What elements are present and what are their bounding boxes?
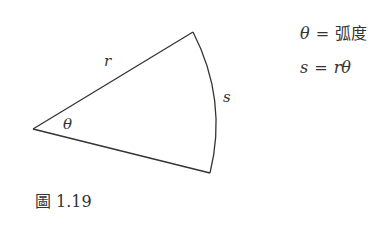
radius-line-bottom — [33, 129, 210, 173]
formula-lhs: s — [300, 58, 308, 77]
label-theta: θ — [63, 117, 72, 132]
formula-eq: = — [316, 24, 329, 43]
formula-lhs: θ — [300, 24, 310, 43]
formula-rhs: 弧度 — [335, 24, 367, 43]
label-r: r — [104, 54, 111, 69]
arc-s — [193, 32, 216, 173]
formula-theta-radian: θ=弧度 — [300, 26, 367, 42]
formula-eq: = — [314, 58, 327, 77]
label-s: s — [223, 90, 231, 105]
radius-line-top — [33, 32, 193, 129]
formula-arc-length: s=rθ — [300, 60, 351, 76]
caption-prefix: 圖 — [35, 192, 51, 211]
figure-caption: 圖 1.19 — [35, 194, 92, 210]
formula-rhs: rθ — [334, 58, 351, 77]
caption-number: 1.19 — [56, 192, 92, 211]
